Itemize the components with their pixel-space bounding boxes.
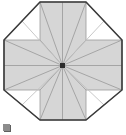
corner-marker-group xyxy=(3,124,11,132)
center-point-marker xyxy=(60,63,65,68)
geometric-diagram-canvas xyxy=(0,0,126,135)
corner-marker xyxy=(3,124,10,131)
figure-root: octagonal-cross-radial-diagram 40,2 86,2… xyxy=(0,0,126,135)
